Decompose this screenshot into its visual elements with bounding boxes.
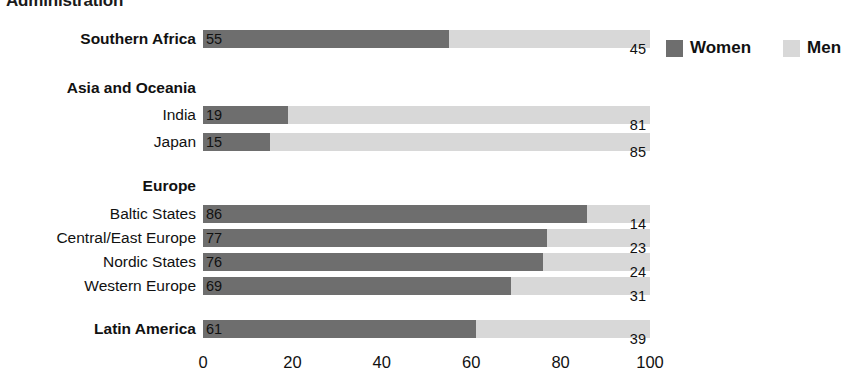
stacked-bar (203, 229, 650, 247)
legend-label-men: Men (807, 38, 841, 58)
row-label: Asia and Oceania (0, 79, 196, 97)
bar-value-men: 45 (612, 40, 646, 58)
axis-tick-label: 40 (373, 352, 391, 372)
bar-segment-men (270, 133, 650, 151)
stacked-bar (203, 253, 650, 271)
bar-segment-women (203, 277, 511, 295)
legend-swatch-men (783, 40, 800, 57)
stacked-bar (203, 133, 650, 151)
row-label: India (0, 106, 196, 124)
chart-bar-row: Latin America6139 (0, 320, 856, 338)
axis-tick-label: 0 (198, 352, 207, 372)
bar-value-men: 31 (612, 287, 646, 305)
axis-tick-label: 80 (551, 352, 569, 372)
chart-bar-row: India1981 (0, 106, 856, 124)
chart-bar-row: Nordic States7624 (0, 253, 856, 271)
bar-value-women: 77 (206, 229, 222, 247)
bar-value-women: 86 (206, 205, 222, 223)
bar-segment-women (203, 320, 476, 338)
chart-bar-row: Japan1585 (0, 133, 856, 151)
row-label: Europe (0, 177, 196, 195)
bar-segment-women (203, 229, 547, 247)
axis-tick-label: 60 (462, 352, 480, 372)
row-label: Central/East Europe (0, 229, 196, 247)
stacked-bar (203, 30, 650, 48)
row-label: Japan (0, 133, 196, 151)
bar-value-women: 15 (206, 133, 222, 151)
stacked-bar (203, 320, 650, 338)
bar-segment-women (203, 30, 449, 48)
bar-value-women: 76 (206, 253, 222, 271)
bar-value-women: 61 (206, 320, 222, 338)
row-label: Latin America (0, 320, 196, 338)
bar-segment-women (203, 253, 543, 271)
row-label: Southern Africa (0, 30, 196, 48)
axis-tick-label: 100 (636, 352, 664, 372)
bar-value-men: 81 (612, 116, 646, 134)
chart-bar-row: Baltic States8614 (0, 205, 856, 223)
row-label: Western Europe (0, 277, 196, 295)
stacked-bar (203, 106, 650, 124)
x-axis: 020406080100 (203, 352, 650, 376)
bar-segment-men (288, 106, 650, 124)
row-label: Nordic States (0, 253, 196, 271)
chart-bar-row: Western Europe6931 (0, 277, 856, 295)
bar-value-men: 39 (612, 330, 646, 348)
chart-group-heading: Europe (0, 177, 856, 195)
legend-swatch-women (666, 40, 683, 57)
bar-segment-women (203, 205, 587, 223)
legend-item-women[interactable]: Women (666, 38, 751, 58)
bar-value-women: 19 (206, 106, 222, 124)
chart-bar-row: Central/East Europe7723 (0, 229, 856, 247)
row-label: Baltic States (0, 205, 196, 223)
bar-value-women: 69 (206, 277, 222, 295)
stacked-bar (203, 277, 650, 295)
stacked-bar (203, 205, 650, 223)
legend-item-men[interactable]: Men (783, 38, 841, 58)
stacked-bar-chart: Southern Africa5545Asia and OceaniaIndia… (0, 0, 856, 390)
bar-value-women: 55 (206, 30, 222, 48)
legend-label-women: Women (690, 38, 751, 58)
bar-value-men: 85 (612, 143, 646, 161)
axis-tick-label: 20 (283, 352, 301, 372)
chart-group-heading: Asia and Oceania (0, 79, 856, 97)
chart-legend: WomenMen (666, 36, 841, 60)
